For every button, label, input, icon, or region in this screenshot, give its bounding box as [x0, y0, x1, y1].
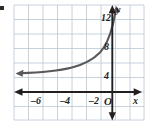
x-tick-label-minus-2: –2 [89, 96, 99, 106]
y-tick-label-8: 8 [104, 42, 109, 52]
coordinate-plane [0, 0, 145, 132]
x-tick-label-minus-4: –4 [60, 96, 70, 106]
x-tick-label-minus-6: –6 [31, 96, 41, 106]
y-tick-label-4: 4 [104, 71, 109, 81]
y-tick-label-12: 12 [101, 13, 111, 23]
graph-figure: 12 8 4 –6 –4 –2 O x y [0, 0, 145, 132]
y-axis-label: y [116, 5, 120, 15]
origin-label: O [104, 96, 112, 107]
x-axis-label: x [133, 96, 138, 106]
